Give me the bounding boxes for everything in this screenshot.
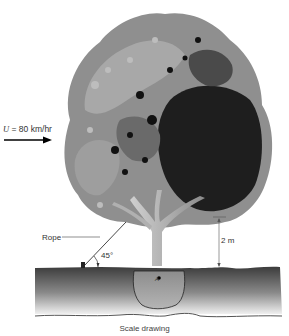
height-label: 2 m	[221, 236, 234, 245]
rope-stake	[81, 262, 85, 268]
rope-label: Rope	[42, 233, 61, 242]
tree-diagram	[0, 0, 289, 336]
pivot-label: A	[155, 276, 159, 282]
wind-speed-label: U = 80 km/hr	[3, 124, 52, 134]
tree-canopy	[64, 13, 272, 227]
wind-arrow-icon	[4, 137, 52, 144]
angle-label: 45°	[101, 251, 113, 260]
figure-caption: Scale drawing	[0, 324, 289, 333]
